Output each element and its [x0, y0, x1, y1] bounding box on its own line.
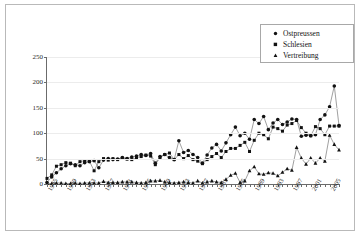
data-point-triangle: [295, 145, 299, 149]
data-point-square: [224, 150, 227, 153]
square-marker-icon: [269, 41, 281, 48]
data-point-circle: [285, 120, 289, 124]
data-point-square: [149, 155, 152, 158]
data-point-square: [234, 147, 237, 150]
data-point-square: [253, 139, 256, 142]
data-point-circle: [267, 128, 271, 132]
data-point-circle: [210, 146, 214, 150]
data-point-square: [328, 125, 331, 128]
legend: Ostpreussen Schlesien Vertreibung: [260, 24, 354, 63]
data-point-square: [248, 150, 251, 153]
data-point-square: [64, 161, 67, 164]
data-point-circle: [290, 117, 294, 121]
data-point-square: [50, 173, 53, 176]
data-point-circle: [323, 113, 327, 117]
data-point-square: [201, 162, 204, 165]
data-point-square: [69, 162, 72, 165]
legend-item-label: Ostpreussen: [283, 30, 320, 38]
x-tick-mark: [268, 184, 269, 187]
data-point-circle: [191, 153, 195, 157]
legend-item[interactable]: Ostpreussen: [261, 28, 353, 39]
data-point-triangle: [229, 173, 233, 177]
data-point-triangle: [233, 171, 237, 175]
data-point-square: [55, 165, 58, 168]
data-point-triangle: [332, 142, 336, 146]
data-point-square: [88, 160, 91, 163]
data-point-square: [309, 134, 312, 137]
data-point-triangle: [158, 178, 162, 182]
data-point-square: [276, 127, 279, 130]
data-point-square: [229, 147, 232, 150]
data-point-square: [338, 125, 341, 128]
data-point-circle: [318, 118, 322, 122]
data-point-circle: [271, 121, 275, 125]
x-tick-mark: [61, 184, 62, 187]
data-point-square: [168, 152, 171, 155]
data-point-circle: [262, 115, 266, 119]
data-point-circle: [186, 149, 190, 153]
gridline: [47, 108, 339, 109]
data-point-circle: [252, 118, 256, 122]
data-point-square: [286, 124, 289, 127]
data-point-triangle: [257, 172, 261, 176]
data-point-square: [154, 163, 157, 166]
data-point-triangle: [210, 179, 214, 183]
data-point-triangle: [252, 165, 256, 169]
data-point-circle: [215, 143, 219, 147]
data-point-square: [300, 126, 303, 129]
plot-area: 050100150200250 194519491953195719611965…: [46, 57, 339, 185]
data-point-circle: [234, 125, 238, 129]
x-tick-mark: [155, 184, 156, 187]
y-tick-mark: [44, 133, 47, 134]
data-point-triangle: [248, 169, 252, 173]
x-tick-mark: [174, 184, 175, 187]
data-point-square: [93, 169, 96, 172]
data-point-triangle: [102, 179, 106, 183]
data-point-square: [243, 141, 246, 144]
legend-item[interactable]: Vertreibung: [261, 50, 353, 61]
data-point-square: [187, 154, 190, 157]
data-point-circle: [257, 122, 261, 126]
data-point-circle: [97, 166, 101, 170]
x-tick-mark: [325, 184, 326, 187]
legend-item-label: Vertreibung: [283, 52, 318, 60]
data-point-circle: [332, 84, 336, 88]
data-point-circle: [238, 134, 242, 138]
data-point-circle: [78, 164, 82, 168]
data-point-circle: [248, 138, 252, 142]
data-point-circle: [276, 118, 280, 122]
data-point-circle: [177, 139, 181, 143]
data-point-square: [267, 137, 270, 140]
data-point-square: [60, 163, 63, 166]
data-point-square: [215, 152, 218, 155]
data-point-circle: [64, 164, 68, 168]
y-tick-mark: [44, 108, 47, 109]
data-point-square: [97, 160, 100, 163]
series-plot: [47, 57, 339, 184]
y-tick-mark: [44, 82, 47, 83]
x-tick-mark: [306, 184, 307, 187]
series-line: [47, 121, 339, 179]
data-point-square: [46, 177, 49, 180]
data-point-triangle: [285, 167, 289, 171]
data-point-circle: [281, 123, 285, 127]
legend-item-label: Schlesien: [283, 41, 312, 49]
gridline: [47, 159, 339, 160]
x-tick-mark: [250, 184, 251, 187]
data-point-square: [196, 160, 199, 163]
data-point-square: [74, 164, 77, 167]
x-tick-mark: [287, 184, 288, 187]
data-point-circle: [219, 149, 223, 153]
data-point-square: [314, 125, 317, 128]
data-point-triangle: [266, 171, 270, 175]
data-point-square: [295, 119, 298, 122]
legend-item[interactable]: Schlesien: [261, 39, 353, 50]
data-point-square: [290, 122, 293, 125]
data-point-square: [78, 160, 81, 163]
data-point-square: [333, 125, 336, 128]
x-tick-mark: [118, 184, 119, 187]
data-point-square: [272, 126, 275, 129]
x-tick-mark: [80, 184, 81, 187]
x-tick-mark: [193, 184, 194, 187]
circle-marker-icon: [269, 30, 281, 37]
